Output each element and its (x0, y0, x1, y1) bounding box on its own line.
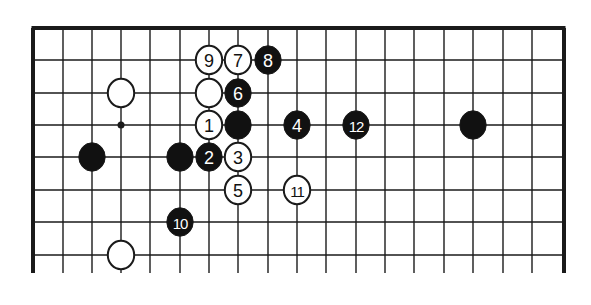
black-stone: 8 (255, 46, 281, 74)
move-number-label: 6 (233, 84, 243, 104)
star-points (118, 122, 125, 129)
white-stone: 9 (196, 46, 222, 74)
go-board-diagram: 123456789101112 (0, 0, 591, 305)
black-stone (225, 111, 251, 139)
white-stone (108, 241, 134, 269)
white-stone (196, 79, 222, 107)
black-stone (167, 143, 193, 171)
star-point-icon (118, 122, 125, 129)
white-stone: 7 (225, 46, 251, 74)
move-number-label: 12 (349, 118, 364, 135)
black-stone-icon (460, 111, 486, 139)
black-stone (79, 143, 105, 171)
move-number-label: 10 (173, 215, 188, 232)
black-stone: 4 (284, 111, 310, 139)
white-stone-icon (108, 79, 134, 107)
black-stone: 2 (196, 143, 222, 171)
white-stone-icon (108, 241, 134, 269)
black-stone-icon (79, 143, 105, 171)
move-number-label: 11 (290, 183, 304, 200)
board-grid (32, 28, 566, 273)
black-stone-icon (167, 143, 193, 171)
move-number-label: 3 (233, 148, 243, 168)
move-number-label: 8 (263, 51, 273, 71)
move-number-label: 4 (292, 116, 302, 136)
move-number-label: 1 (204, 116, 214, 136)
black-stone-icon (225, 111, 251, 139)
black-stone: 12 (343, 111, 369, 139)
move-number-label: 2 (204, 148, 214, 168)
move-number-label: 7 (233, 51, 243, 71)
white-stone-icon (196, 79, 222, 107)
white-stone: 11 (284, 176, 310, 204)
move-number-label: 5 (233, 181, 243, 201)
white-stone: 3 (225, 143, 251, 171)
black-stone: 10 (167, 208, 193, 236)
move-number-label: 9 (204, 51, 214, 71)
black-stone (460, 111, 486, 139)
white-stone (108, 79, 134, 107)
white-stone: 1 (196, 111, 222, 139)
black-stone: 6 (225, 79, 251, 107)
white-stone: 5 (225, 176, 251, 204)
